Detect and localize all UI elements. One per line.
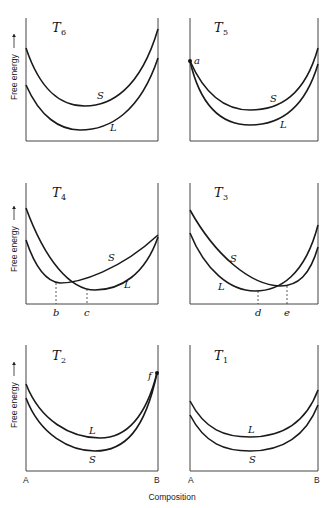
temperature-subscript: 4: [61, 193, 66, 202]
curve-label-s: S: [270, 93, 277, 104]
solid-curve-s: [26, 373, 157, 451]
arrow-head: [12, 34, 16, 37]
temperature-subscript: 6: [61, 28, 66, 37]
marker-label-c: c: [84, 307, 90, 318]
free-energy-diagram: T 6 S L Free energy T 5 a S L T 4 b c S: [0, 0, 333, 508]
y-axis-label-row1: Free energy: [9, 34, 19, 100]
liquid-curve-l: [26, 208, 158, 290]
temperature-subscript: 5: [223, 28, 228, 37]
panel-t2: T 2 f L S A B: [23, 345, 160, 485]
panel-t3: T 3 d e S L: [190, 183, 318, 318]
axis-end-b: B: [314, 475, 320, 485]
point-label-a: a: [194, 55, 200, 66]
panel-frame: [190, 345, 318, 471]
curve-label-l: L: [88, 425, 96, 436]
temperature-subscript: 3: [223, 193, 228, 202]
point-label-f: f: [147, 370, 154, 381]
curve-label-l: L: [123, 279, 131, 290]
marker-label-b: b: [53, 307, 59, 318]
point-a: [188, 59, 192, 63]
x-axis-label: Composition: [148, 492, 196, 502]
panel-t5: T 5 a S L: [188, 18, 318, 141]
panel-frame: [26, 183, 158, 304]
arrow-head: [12, 206, 16, 209]
arrow-head: [12, 362, 16, 365]
marker-label-d: d: [255, 307, 261, 318]
y-axis-label-row2: Free energy: [9, 206, 19, 272]
curve-label-s: S: [89, 454, 96, 465]
marker-label-e: e: [284, 307, 290, 318]
free-energy-label: Free energy: [9, 225, 19, 272]
axis-end-a: A: [188, 475, 194, 485]
solid-curve-s: [190, 48, 318, 110]
solid-curve-s: [26, 29, 158, 106]
y-axis-label-row3: Free energy: [9, 362, 19, 428]
temperature-subscript: 2: [61, 356, 66, 365]
panel-t1: T 1 L S A B: [188, 345, 320, 485]
panel-frame: [26, 18, 158, 141]
solid-curve-s: [26, 235, 158, 283]
liquid-curve-l: [26, 58, 158, 130]
free-energy-label: Free energy: [9, 381, 19, 428]
curve-label-l: L: [247, 424, 255, 435]
panel-t4: T 4 b c S L: [26, 183, 158, 318]
panel-frame: [190, 18, 318, 141]
solid-curve-s: [190, 210, 318, 286]
liquid-curve-l: [190, 61, 318, 125]
curve-label-s: S: [108, 252, 115, 263]
curve-label-l: L: [217, 281, 225, 292]
curve-label-l: L: [109, 122, 117, 133]
curve-label-s: S: [230, 253, 237, 264]
temperature-subscript: 1: [223, 356, 228, 365]
free-energy-label: Free energy: [9, 53, 19, 100]
axis-end-a: A: [23, 475, 29, 485]
point-f: [155, 371, 159, 375]
panel-t6: T 6 S L: [26, 18, 158, 141]
curve-label-s: S: [97, 90, 104, 101]
curve-label-l: L: [279, 119, 287, 130]
axis-end-b: B: [154, 475, 160, 485]
panel-frame: [26, 345, 158, 471]
panel-frame: [190, 183, 318, 304]
curve-label-s: S: [249, 454, 256, 465]
